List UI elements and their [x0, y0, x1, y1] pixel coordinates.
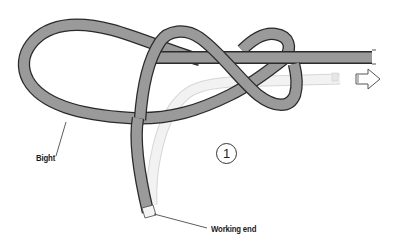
knot-illustration: [0, 0, 407, 246]
arrow-right-icon: [356, 69, 380, 89]
step-number-badge: 1: [216, 143, 237, 164]
bight-leader-line: [56, 122, 66, 156]
bight-label: Bight: [36, 152, 55, 163]
working-end-label: Working end: [211, 223, 256, 234]
working-end-leader-line: [154, 214, 207, 228]
knot-diagram: Bight Working end 1: [0, 0, 407, 246]
rope-standing-part: [150, 50, 376, 64]
